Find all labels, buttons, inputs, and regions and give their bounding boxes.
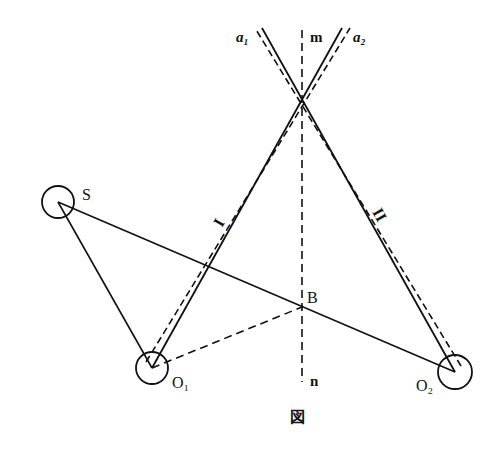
label-S: S bbox=[82, 186, 91, 203]
label-ray-I: I bbox=[210, 216, 228, 230]
label-O2: O₂ bbox=[416, 377, 433, 394]
ray-II-dashed-line bbox=[255, 28, 461, 366]
diagram-figure: a₁ m a₂ S B n O₁ O₂ I II 図 bbox=[0, 0, 503, 450]
label-n: n bbox=[310, 373, 319, 389]
line-S-O1 bbox=[58, 202, 152, 368]
line-S-O2 bbox=[58, 202, 455, 372]
label-B: B bbox=[307, 289, 318, 306]
label-m: m bbox=[310, 29, 323, 45]
figure-caption: 図 bbox=[290, 408, 305, 426]
label-O1: O₁ bbox=[172, 374, 189, 391]
line-O1-B-dashed bbox=[152, 307, 302, 368]
label-a1: a₁ bbox=[236, 29, 249, 45]
label-a2: a₂ bbox=[353, 29, 366, 45]
ray-II-solid-line bbox=[262, 28, 455, 372]
